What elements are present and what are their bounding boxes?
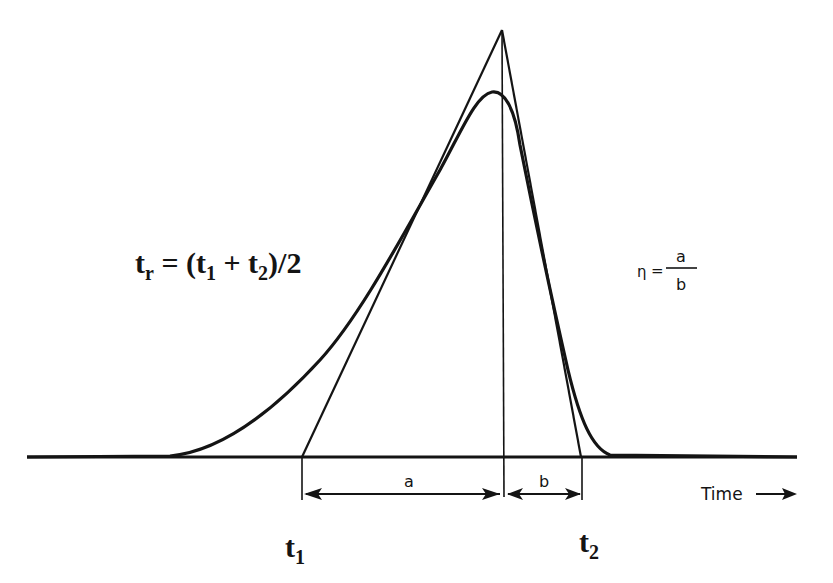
right-tangent [502,30,581,457]
numerator: a [676,247,686,266]
eta-symbol: η [637,263,647,281]
time-axis-label: Time [700,484,743,504]
peak-diagram: a b tr = (t1 + t2)/2 η = a b t1 t2 Time [0,0,833,583]
segment-a-label: a [404,472,414,491]
apex-vertical [502,30,504,497]
left-tangent [302,30,502,457]
equals-sign: = [651,262,664,280]
denominator: b [676,275,686,294]
asymmetry-formula: η = a b [637,247,697,294]
t1-label: t1 [285,530,305,568]
time-arrow-icon [756,488,797,500]
segment-b-label: b [539,472,549,491]
retention-formula: tr = (t1 + t2)/2 [135,246,301,284]
t2-label: t2 [579,525,599,563]
dimension-a [304,488,500,500]
